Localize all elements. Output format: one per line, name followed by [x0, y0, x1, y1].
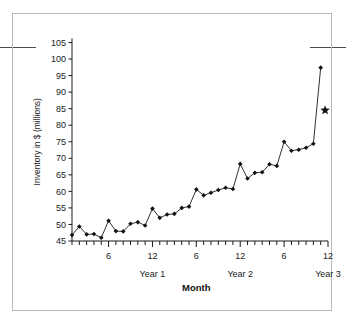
group-label-0: Year 1	[140, 269, 166, 279]
y-tick-label-55: 55	[56, 203, 66, 213]
y-tick-label-100: 100	[51, 54, 66, 64]
data-point	[231, 187, 236, 192]
y-tick-label-95: 95	[56, 71, 66, 81]
data-point	[216, 188, 221, 193]
series-line-inventory	[72, 68, 321, 238]
data-point	[296, 147, 301, 152]
data-point	[209, 190, 214, 195]
y-tick-label-80: 80	[56, 120, 66, 130]
x-tick-label-3: 12	[235, 251, 245, 261]
x-tick-label-1: 12	[147, 251, 157, 261]
y-axis-title: Inventory in $ (millions)	[32, 98, 42, 186]
x-tick-label-5: 12	[323, 251, 333, 261]
y-tick-label-60: 60	[56, 187, 66, 197]
data-point	[165, 212, 170, 217]
y-tick-label-105: 105	[51, 38, 66, 48]
y-tick-label-90: 90	[56, 87, 66, 97]
forecast-star	[320, 105, 330, 114]
figure-page: 4550556065707580859095100105612612612Yea…	[0, 0, 346, 330]
y-tick-label-45: 45	[56, 236, 66, 246]
y-tick-label-50: 50	[56, 220, 66, 230]
data-point	[311, 141, 316, 146]
data-point	[143, 223, 148, 228]
y-tick-label-75: 75	[56, 137, 66, 147]
y-tick-label-65: 65	[56, 170, 66, 180]
x-tick-label-2: 6	[194, 251, 199, 261]
x-axis-title: Month	[182, 282, 211, 293]
data-point	[99, 235, 104, 240]
group-label-1: Year 2	[227, 269, 253, 279]
x-tick-label-0: 6	[106, 251, 111, 261]
data-point	[318, 65, 323, 70]
y-tick-label-70: 70	[56, 153, 66, 163]
data-point	[223, 185, 228, 190]
data-point	[136, 220, 141, 225]
data-point	[92, 232, 97, 237]
data-point	[187, 204, 192, 209]
data-point	[304, 145, 309, 150]
data-point	[238, 162, 243, 167]
inventory-line-chart: 4550556065707580859095100105612612612Yea…	[0, 0, 346, 330]
group-label-2: Year 3	[315, 269, 341, 279]
y-tick-label-85: 85	[56, 104, 66, 114]
data-point	[275, 164, 280, 169]
x-tick-label-4: 6	[282, 251, 287, 261]
